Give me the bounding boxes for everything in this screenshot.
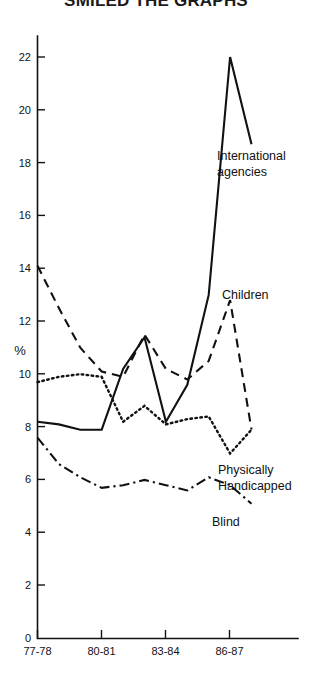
y-tick-label-18: 18: [19, 157, 31, 169]
y-tick-label-6: 6: [25, 473, 31, 485]
line-chart-svg: 22 20 18 16 14 12 10 8 6 4 2 0 % 77-78 8…: [0, 0, 312, 679]
series-label-physically-handicapped-line2: Handicapped: [218, 479, 292, 493]
series-line-physically-handicapped: [38, 374, 252, 453]
y-tick-label-10: 10: [19, 368, 31, 380]
series-label-children: Children: [222, 288, 269, 302]
y-axis-unit-label: %: [14, 343, 26, 358]
x-tick-label-83-84: 83-84: [151, 645, 179, 657]
series-group: [38, 57, 252, 504]
y-tick-label-2: 2: [25, 579, 31, 591]
y-tick-label-0: 0: [25, 632, 31, 644]
y-tick-label-14: 14: [19, 262, 31, 274]
y-tick-label-12: 12: [19, 315, 31, 327]
series-line-international-agencies: [38, 57, 252, 430]
x-axis-ticks: 77-78 80-81 83-84 86-87: [23, 630, 243, 657]
y-tick-label-4: 4: [25, 526, 31, 538]
series-label-physically-handicapped-line1: Physically: [218, 463, 274, 477]
chart-container: SMILED THE GRAPHS 22 20 18 16 14 12 10: [0, 0, 312, 679]
y-tick-label-22: 22: [19, 51, 31, 63]
x-tick-label-77-78: 77-78: [23, 645, 51, 657]
series-labels-group: International agencies Children Physical…: [212, 149, 292, 529]
axis-lines: [38, 36, 299, 639]
y-tick-label-20: 20: [19, 104, 31, 116]
series-label-international-agencies-line2: agencies: [217, 165, 267, 179]
x-tick-label-86-87: 86-87: [215, 645, 243, 657]
y-tick-label-8: 8: [25, 421, 31, 433]
series-label-international-agencies-line1: International: [217, 149, 286, 163]
x-tick-label-80-81: 80-81: [87, 645, 115, 657]
y-axis-ticks: 22 20 18 16 14 12 10 8 6 4 2 0 %: [14, 51, 45, 644]
axis-group: [38, 36, 299, 639]
series-label-blind: Blind: [212, 515, 240, 529]
y-tick-label-16: 16: [19, 209, 31, 221]
chart-title: SMILED THE GRAPHS: [0, 0, 312, 7]
